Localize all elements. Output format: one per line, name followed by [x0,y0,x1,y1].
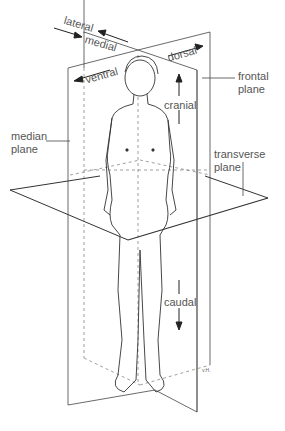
arrow-ventral-head [74,76,83,82]
label-frontal-plane-1: frontal [238,70,269,82]
label-transverse-plane-1: transverse [214,148,265,160]
arrow-medial-head [98,30,106,36]
transverse-plane [10,176,268,240]
label-cranial: cranial [164,99,196,111]
label-median-plane-2: plane [11,143,38,155]
diagram-drawing [0,0,285,431]
label-median-plane-1: median [11,130,47,142]
arrow-caudal-head [176,322,182,330]
label-frontal-plane-2: plane [238,83,265,95]
label-caudal: caudal [164,296,196,308]
arrow-cranial-head [176,74,182,82]
label-transverse-plane-2: plane [214,161,241,173]
arrow-lateral-head [74,32,82,38]
artist-signature: v.H. [202,364,211,376]
anatomical-planes-diagram: lateral medial ventral dorsal cranial ca… [0,0,285,431]
